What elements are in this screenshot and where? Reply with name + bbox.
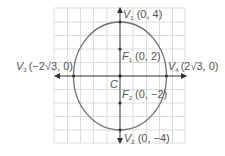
- ellipse-diagram: V1(0, 4) V2(0, −4) V3(−2√3, 0) V4(2√3, 0…: [0, 0, 225, 156]
- vertex-label-v4: V4(2√3, 0): [168, 60, 219, 73]
- vertex-point-v1: [119, 21, 122, 24]
- focus-point-f2: [118, 101, 121, 104]
- vertex-point-v2: [119, 129, 122, 132]
- center-point: [118, 74, 122, 78]
- center-label: C: [110, 78, 118, 90]
- vertex-label-v3: V3(−2√3, 0): [16, 60, 73, 73]
- vertex-point-v4: [165, 75, 168, 78]
- vertex-label-v2: V2(0, −4): [124, 132, 170, 145]
- focus-label-f1: F1(0, 2): [122, 50, 161, 63]
- vertex-label-v1: V1(0, 4): [123, 8, 162, 21]
- vertex-point-v3: [72, 75, 75, 78]
